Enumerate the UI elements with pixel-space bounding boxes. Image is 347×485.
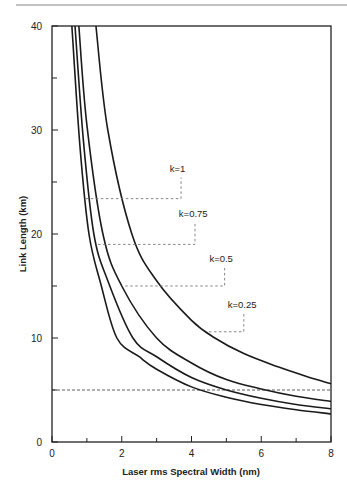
annotation-leader bbox=[98, 223, 195, 244]
y-tick-label: 10 bbox=[31, 333, 43, 344]
y-tick-label: 20 bbox=[31, 229, 43, 240]
x-tick-label: 2 bbox=[119, 448, 125, 459]
curve-k-0_25 bbox=[72, 26, 331, 414]
curves bbox=[72, 26, 331, 414]
annotation-label: k=0.75 bbox=[179, 208, 208, 219]
annotation-leader bbox=[209, 314, 244, 332]
x-tick-label: 6 bbox=[258, 448, 264, 459]
x-tick-label: 8 bbox=[328, 448, 334, 459]
annotation-label: k=0.5 bbox=[209, 253, 233, 264]
y-axis-title: Link Length (km) bbox=[17, 196, 28, 273]
annotation-label: k=0.25 bbox=[228, 299, 257, 310]
y-tick-label: 0 bbox=[36, 437, 42, 448]
link-length-chart: 02468010203040 k=1k=0.75k=0.5k=0.25 Lase… bbox=[0, 0, 347, 485]
x-tick-label: 4 bbox=[189, 448, 195, 459]
annotation-label: k=1 bbox=[170, 163, 186, 174]
curve-annotations: k=1k=0.75k=0.5k=0.25 bbox=[86, 163, 257, 332]
annotation-leader bbox=[86, 178, 181, 199]
x-axis-title: Laser rms Spectral Width (nm) bbox=[122, 466, 260, 477]
y-tick-label: 30 bbox=[31, 125, 43, 136]
x-tick-label: 0 bbox=[49, 448, 55, 459]
y-tick-label: 40 bbox=[31, 21, 43, 32]
annotation-leader bbox=[125, 268, 224, 286]
curve-k-1 bbox=[96, 26, 331, 384]
